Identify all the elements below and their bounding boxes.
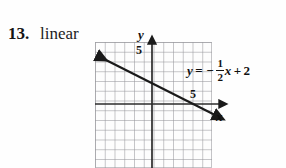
worksheet-answer-figure: 13. linear 5 5 y x y = − <box>0 0 286 168</box>
equation-lhs: y <box>187 64 193 77</box>
line-equation: y = − 1 2 x + 2 <box>187 58 250 83</box>
graph-drawing <box>73 26 248 168</box>
equation-minus-sign: − <box>206 64 213 77</box>
equation-equals: = <box>195 64 202 77</box>
equation-plus-sign: + <box>234 64 241 77</box>
problem-number: 13. <box>8 24 29 44</box>
x-axis-tick-label: 5 <box>190 88 196 100</box>
x-axis-name: x <box>216 110 223 123</box>
fraction-denominator: 2 <box>216 72 224 84</box>
equation-variable: x <box>225 64 232 77</box>
fraction-numerator: 1 <box>216 58 224 70</box>
equation-fraction: 1 2 <box>216 58 224 83</box>
y-axis-tick-label: 5 <box>136 44 142 56</box>
y-axis-name: y <box>138 28 144 41</box>
equation-constant: 2 <box>244 64 251 77</box>
